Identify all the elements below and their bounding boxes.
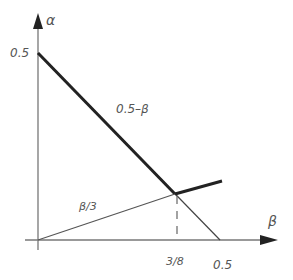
y-tick-label: 0.5 [10,46,29,60]
line-beta-third-thick [175,181,222,194]
x-axis-label: β [268,213,277,229]
y-axis-label: α [46,12,55,28]
line-half-minus-beta-thick [38,53,175,194]
line1-label: 0.5–β [116,102,149,116]
x-tick-label-3-8: 3/8 [166,255,184,268]
y-axis-arrow-icon [33,13,43,29]
line2-label: β/3 [79,200,97,213]
diagram: α 0.5 β 3/8 0.5 0.5–β β/3 [0,0,293,280]
plot-area [0,0,293,280]
x-tick-label-0-5: 0.5 [213,258,232,272]
line-beta-third [38,194,175,240]
x-axis-arrow-icon [260,235,278,245]
